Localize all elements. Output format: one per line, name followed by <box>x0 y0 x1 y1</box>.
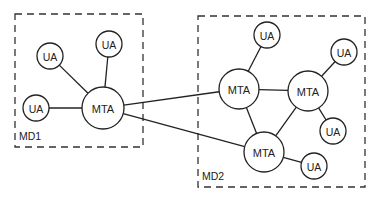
edge-md1-mta-to-md2-mta-3 <box>123 114 244 147</box>
edge-md2-mta-2-to-md2-mta-3 <box>276 107 297 136</box>
node-md2-ua-2: UA <box>331 39 357 65</box>
node-md2-ua-1: UA <box>254 22 280 48</box>
domain-label-md1: MD1 <box>19 130 41 142</box>
node-md2-ua-3: UA <box>320 118 346 144</box>
edge-md2-mta-1-to-md2-mta-3 <box>246 108 256 134</box>
node-md2-mta-3: MTA <box>244 132 284 172</box>
edge-md1-mta-to-md2-mta-1 <box>124 92 219 105</box>
ua-label: UA <box>43 51 58 63</box>
node-md1-ua-1: UA <box>37 43 63 69</box>
ua-label: UA <box>307 161 322 173</box>
ua-label: UA <box>337 47 352 59</box>
mta-label: MTA <box>228 84 251 96</box>
node-md2-mta-1: MTA <box>219 69 259 109</box>
ua-label: UA <box>102 39 117 51</box>
node-md1-mta: MTA <box>82 87 124 129</box>
nodes: UAUAUAMTAUAUAMTAMTAUAMTAUA <box>23 22 357 179</box>
node-md2-mta-2: MTA <box>288 71 328 111</box>
domain-label-md2: MD2 <box>202 170 224 182</box>
edge-md1-ua-1-to-md1-mta <box>59 65 88 93</box>
mta-label: MTA <box>253 147 276 159</box>
ua-label: UA <box>29 103 44 115</box>
edge-md2-mta-2-to-md2-ua-3 <box>319 108 327 120</box>
ua-label: UA <box>326 126 341 138</box>
mta-label: MTA <box>92 103 115 115</box>
mhs-topology-diagram: MD1 MD2 UAUAUAMTAUAUAMTAMTAUAMTAUA <box>0 0 379 197</box>
node-md1-ua-2: UA <box>96 31 122 57</box>
edge-md2-mta-2-to-md2-ua-2 <box>322 62 336 77</box>
mta-label: MTA <box>297 86 320 98</box>
edge-md2-ua-1-to-md2-mta-1 <box>248 47 261 72</box>
node-md2-ua-4: UA <box>301 153 327 179</box>
edge-md2-mta-3-to-md2-ua-4 <box>283 157 301 162</box>
ua-label: UA <box>260 30 275 42</box>
node-md1-ua-3: UA <box>23 95 49 121</box>
edge-md1-ua-2-to-md1-mta <box>105 57 108 87</box>
edge-md2-mta-1-to-md2-mta-2 <box>259 90 288 91</box>
domain-box-md1 <box>15 14 143 147</box>
